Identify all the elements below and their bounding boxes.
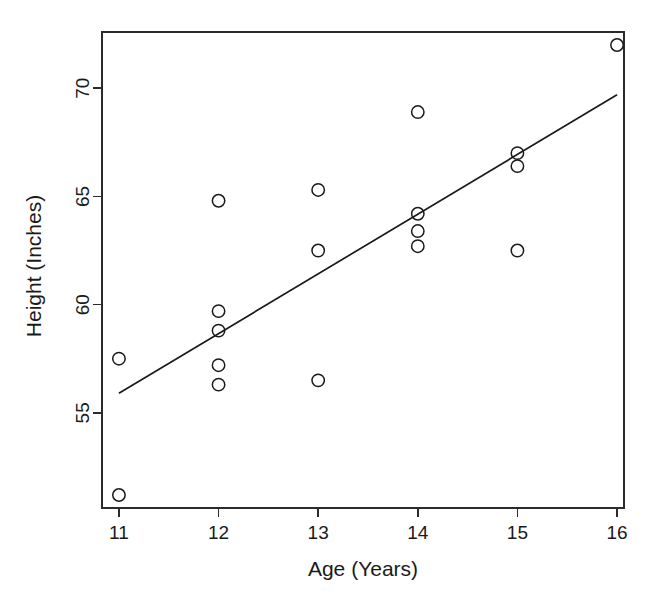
x-tick-label: 12 (208, 522, 229, 543)
x-tick-label: 13 (308, 522, 329, 543)
plot-canvas: 111213141516 55606570 Age (Years) Height… (0, 0, 656, 599)
scatter-plot-figure: 111213141516 55606570 Age (Years) Height… (0, 0, 656, 599)
x-tick-label: 15 (507, 522, 528, 543)
x-axis-label: Age (Years) (308, 557, 418, 580)
y-tick-label: 60 (73, 294, 94, 315)
y-tick-label: 65 (73, 186, 94, 207)
y-tick-label: 70 (73, 78, 94, 99)
x-tick-label: 11 (109, 522, 129, 543)
x-tick-label: 16 (606, 522, 627, 543)
y-axis-label: Height (Inches) (22, 195, 45, 337)
x-tick-label: 14 (407, 522, 429, 543)
y-tick-label: 55 (73, 402, 94, 423)
figure-background (0, 0, 656, 599)
